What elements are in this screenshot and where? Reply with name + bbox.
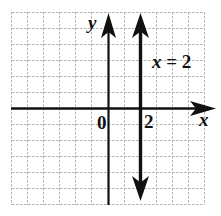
- x-axis-label: x: [199, 110, 209, 129]
- equation-value: 2: [182, 51, 192, 72]
- origin-label: 0: [97, 113, 107, 132]
- graph-figure: y x 0 2 x = 2: [0, 0, 221, 216]
- equation-variable: x: [152, 51, 162, 72]
- equation-label: x = 2: [152, 52, 191, 71]
- x-intercept-label: 2: [144, 112, 154, 131]
- equation-operator: =: [166, 51, 177, 72]
- coordinate-plane-svg: [0, 0, 221, 216]
- y-axis-label: y: [88, 13, 96, 32]
